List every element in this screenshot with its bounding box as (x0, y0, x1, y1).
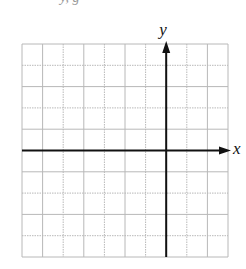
x-axis-arrow-icon (219, 147, 231, 155)
y-axis-arrow-icon (162, 41, 170, 53)
x-axis-label: x (233, 140, 241, 157)
coordinate-plane (0, 0, 246, 269)
y-axis-label: y (159, 21, 167, 38)
